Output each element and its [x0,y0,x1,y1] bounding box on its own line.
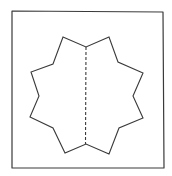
diagram-canvas [0,0,172,176]
diagram-svg [0,0,172,176]
dashed-fold-line [86,47,87,144]
